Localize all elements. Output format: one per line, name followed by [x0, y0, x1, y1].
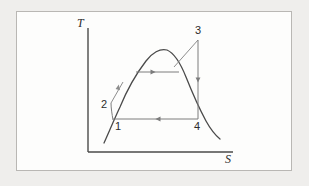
process-superheat-to-3	[174, 40, 198, 67]
state-point-1-label: 1	[115, 121, 121, 132]
arrow-right-boiler	[151, 70, 156, 75]
saturation-dome-curve	[104, 50, 220, 143]
arrow-up-pump	[116, 85, 120, 91]
state-point-4-label: 4	[194, 121, 200, 132]
state-point-2-label: 2	[101, 99, 107, 110]
ts-diagram-plot	[0, 0, 309, 186]
arrow-left-condenser	[155, 117, 160, 122]
process-4-1-condenser	[113, 117, 198, 122]
axis-lines	[88, 28, 233, 152]
state-point-3-label: 3	[195, 25, 201, 36]
process-2-3-heat-addition	[136, 70, 179, 75]
figure-root: T S 1 2 3 4	[0, 0, 309, 186]
arrow-down-turbine	[196, 78, 201, 83]
y-axis-label: T	[77, 17, 84, 29]
x-axis-label: S	[225, 153, 231, 165]
